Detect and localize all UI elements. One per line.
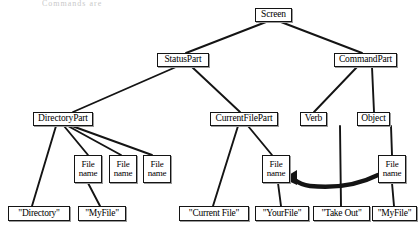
edge-object-to-filename5: [391, 126, 392, 155]
node-verb[interactable]: Verb: [300, 112, 327, 126]
edge-commandpart-to-object: [372, 67, 374, 112]
edge-filename1-to-myfile: [88, 183, 100, 206]
edge-verb-to-takeout: [340, 126, 341, 206]
edge-commandpart-to-verb: [314, 67, 357, 112]
leaf-myfile-right[interactable]: "MyFile": [372, 206, 417, 221]
node-file-name-1[interactable]: File name: [74, 155, 102, 183]
parse-tree-diagram: Commands are: [0, 0, 419, 231]
leaf-current-file[interactable]: "Current File": [179, 206, 249, 221]
filename5-to-filename4-link-arrow: [283, 170, 378, 187]
node-file-name-5[interactable]: File name: [378, 155, 406, 183]
node-file-name-2-line2: name: [114, 169, 133, 178]
node-file-name-3[interactable]: File name: [143, 155, 171, 183]
leaf-take-out-label: "Take Out": [321, 209, 361, 219]
leaf-yourfile-label: "YourFile": [263, 209, 302, 219]
leaf-myfile-left[interactable]: "MyFile": [78, 206, 126, 221]
node-file-name-2[interactable]: File name: [109, 155, 137, 183]
node-screen[interactable]: Screen: [255, 8, 292, 22]
node-object[interactable]: Object: [357, 112, 390, 126]
edge-currentfilepart-to-currentfile: [213, 126, 238, 206]
node-statuspart[interactable]: StatusPart: [157, 53, 209, 67]
edge-screen-to-statuspart: [186, 22, 266, 53]
node-currentfilepart[interactable]: CurrentFilePart: [210, 112, 278, 126]
edge-screen-to-commandpart: [281, 22, 362, 53]
edge-filename5-to-myfile: [392, 183, 394, 206]
node-directorypart-label: DirectoryPart: [38, 114, 88, 124]
leaf-take-out[interactable]: "Take Out": [313, 206, 370, 221]
node-directorypart[interactable]: DirectoryPart: [33, 112, 93, 126]
edge-filename4-to-yourfile: [278, 183, 281, 206]
node-file-name-5-line2: name: [383, 169, 402, 178]
leaf-current-file-label: "Current File": [189, 209, 239, 219]
edge-currentfilepart-to-filename4: [248, 126, 272, 155]
node-commandpart-label: CommandPart: [339, 55, 392, 65]
leaf-myfile-left-label: "MyFile": [85, 209, 119, 219]
node-currentfilepart-label: CurrentFilePart: [216, 114, 273, 124]
leaf-directory-label: "Directory": [18, 209, 59, 219]
edge-directorypart-to-directory: [32, 126, 56, 206]
node-commandpart[interactable]: CommandPart: [334, 53, 397, 67]
node-file-name-1-line2: name: [79, 169, 98, 178]
edge-statuspart-to-directorypart: [73, 67, 176, 112]
edge-statuspart-to-currentfilepart: [192, 67, 240, 112]
node-screen-label: Screen: [261, 10, 286, 20]
leaf-directory[interactable]: "Directory": [8, 206, 70, 221]
node-verb-label: Verb: [305, 114, 322, 124]
node-file-name-4[interactable]: File name: [262, 155, 290, 183]
page-header-caption: Commands are: [42, 0, 102, 6]
node-statuspart-label: StatusPart: [164, 55, 201, 65]
node-file-name-3-line2: name: [148, 169, 167, 178]
node-object-label: Object: [361, 114, 385, 124]
leaf-myfile-right-label: "MyFile": [378, 209, 412, 219]
leaf-yourfile[interactable]: "YourFile": [255, 206, 309, 221]
node-file-name-4-line2: name: [267, 169, 286, 178]
